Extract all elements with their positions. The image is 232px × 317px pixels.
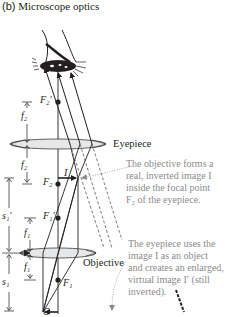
- eye-icon: [32, 30, 86, 76]
- eyepiece-note: The eyepiece uses the image I as an obje…: [128, 238, 224, 298]
- focal-point-F1: [55, 277, 60, 282]
- label-f1-lower: f₁: [24, 261, 30, 272]
- label-eyepiece: Eyepiece: [113, 138, 151, 149]
- label-s1: s₁: [2, 276, 9, 287]
- label-f2-lower: f₂: [21, 159, 27, 170]
- label-s1-prime: s₁′: [2, 210, 12, 221]
- label-f1-upper: f₁: [24, 227, 30, 238]
- label-F2: F₂: [43, 176, 53, 187]
- label-object-O: O: [43, 306, 50, 317]
- label-F2-prime: F₂′: [40, 94, 52, 105]
- label-F1: F₁: [63, 277, 73, 288]
- objective-note: The objective forms a real, inverted ima…: [126, 158, 213, 206]
- label-F1-prime: F₁′: [43, 210, 55, 221]
- eyepiece-note-leader: [112, 262, 126, 310]
- s1-dimension: [2, 178, 30, 311]
- label-objective: Objective: [83, 257, 124, 268]
- objective-note-leader: [82, 166, 132, 178]
- focal-point-F2-prime: [55, 99, 60, 104]
- label-image-I: I: [64, 167, 67, 178]
- label-f2-upper: f₂: [21, 110, 27, 121]
- focal-point-F2: [55, 181, 60, 186]
- focal-point-F1-prime: [55, 215, 60, 220]
